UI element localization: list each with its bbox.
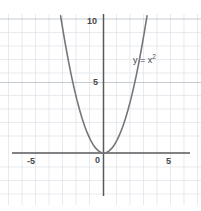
- parabola-chart: 10 5 0 -5 5 y = x2: [0, 0, 201, 211]
- equation-base: y = x: [133, 55, 152, 65]
- parabola-overlay: [0, 0, 201, 211]
- origin-label: 0: [95, 156, 100, 165]
- y-tick-label-5: 5: [93, 78, 98, 87]
- y-tick-label-10: 10: [87, 17, 97, 26]
- curve-equation-annotation: y = x2: [133, 56, 156, 65]
- x-tick-label-neg5: -5: [27, 157, 35, 166]
- parabola-path: [61, 16, 147, 153]
- equation-exponent: 2: [152, 53, 156, 60]
- x-tick-label-5: 5: [166, 157, 171, 166]
